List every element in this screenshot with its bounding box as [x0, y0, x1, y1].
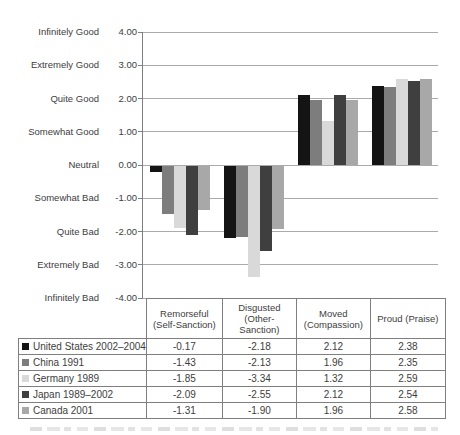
value-cell: -2.55 — [222, 387, 296, 403]
value-cell: 2.12 — [296, 387, 370, 403]
y-axis-word-label: Quite Bad — [57, 226, 99, 238]
y-axis-tick-label: Neutral0.00 — [0, 159, 137, 171]
y-axis-tick-label: Extremely Good3.00 — [0, 59, 137, 71]
value-cell: 1.32 — [296, 371, 370, 387]
y-axis-value-label: 4.00 — [99, 26, 137, 38]
y-axis-tick-label: Somewhat Bad-1.00 — [0, 192, 137, 204]
value-cell: -1.43 — [146, 355, 222, 371]
value-cell: -1.31 — [146, 403, 222, 419]
value-cell: 2.38 — [370, 339, 445, 355]
y-axis-word-label: Extremely Bad — [37, 259, 99, 271]
table-row: Canada 2001-1.31-1.901.962.58 — [19, 403, 446, 419]
y-axis-value-label: 0.00 — [99, 159, 137, 171]
axis-tick — [138, 32, 143, 33]
table-corner-cell — [19, 299, 147, 339]
bar — [420, 79, 432, 165]
legend-series-label: Germany 1989 — [33, 373, 99, 384]
axis-tick — [138, 65, 143, 66]
table-header-cell: Disgusted (Other- Sanction) — [222, 299, 296, 339]
bar — [408, 81, 420, 165]
table-row: China 1991-1.43-2.131.962.35 — [19, 355, 446, 371]
bar — [334, 95, 346, 165]
legend-series-label: Japan 1989–2002 — [33, 389, 113, 400]
legend-marker — [22, 343, 29, 350]
axis-tick — [138, 231, 143, 232]
y-axis-value-label: 1.00 — [99, 126, 137, 138]
bar — [162, 166, 174, 214]
value-cell: -1.85 — [146, 371, 222, 387]
bar — [272, 166, 284, 229]
value-cell: 2.59 — [370, 371, 445, 387]
y-axis-value-label: 2.00 — [99, 93, 137, 105]
y-axis-word-label: Infinitely Good — [38, 26, 99, 38]
legend-marker — [22, 375, 29, 382]
table-header-cell: Remorseful (Self-Sanction) — [146, 299, 222, 339]
gridline — [143, 264, 438, 265]
y-axis-tick-label: Infinitely Good4.00 — [0, 26, 137, 38]
y-axis-value-label: -3.00 — [99, 259, 137, 271]
bar-chart-figure: Infinitely Good4.00Extremely Good3.00Qui… — [0, 0, 460, 435]
value-cell: 1.96 — [296, 355, 370, 371]
y-axis-word-label: Somewhat Good — [28, 126, 99, 138]
value-cell: -1.90 — [222, 403, 296, 419]
value-cell: -2.09 — [146, 387, 222, 403]
bar — [372, 86, 384, 165]
y-axis-tick-label: Extremely Bad-3.00 — [0, 259, 137, 271]
table-row: Germany 1989-1.85-3.341.322.59 — [19, 371, 446, 387]
y-axis-word-label: Extremely Good — [31, 59, 99, 71]
legend-cell: Germany 1989 — [19, 371, 147, 387]
gridline — [143, 32, 438, 33]
value-cell: -0.17 — [146, 339, 222, 355]
legend-cell: Canada 2001 — [19, 403, 147, 419]
legend-marker — [22, 391, 29, 398]
gridline — [143, 65, 438, 66]
y-axis-value-label: -2.00 — [99, 226, 137, 238]
bar — [322, 121, 334, 165]
y-axis-value-label: -1.00 — [99, 192, 137, 204]
y-axis-value-label: 3.00 — [99, 59, 137, 71]
y-axis-word-label: Neutral — [68, 159, 99, 171]
legend-cell: China 1991 — [19, 355, 147, 371]
bar — [248, 166, 260, 277]
plot-area — [142, 32, 438, 298]
bar — [260, 166, 272, 251]
bar — [310, 100, 322, 165]
y-axis-tick-label: Quite Bad-2.00 — [0, 226, 137, 238]
value-cell: 2.54 — [370, 387, 445, 403]
y-axis-word-label: Quite Good — [50, 93, 99, 105]
value-cell: 2.12 — [296, 339, 370, 355]
data-table: Remorseful (Self-Sanction)Disgusted (Oth… — [18, 298, 446, 419]
table-header-cell: Proud (Praise) — [370, 299, 445, 339]
table-row: United States 2002–2004-0.17-2.182.122.3… — [19, 339, 446, 355]
legend-marker — [22, 407, 29, 414]
axis-tick — [138, 198, 143, 199]
axis-tick — [138, 98, 143, 99]
axis-tick — [138, 131, 143, 132]
cropped-caption-fragment — [30, 427, 438, 431]
value-cell: 2.35 — [370, 355, 445, 371]
value-cell: -2.18 — [222, 339, 296, 355]
bar — [174, 166, 186, 228]
axis-tick — [138, 165, 143, 166]
legend-cell: United States 2002–2004 — [19, 339, 147, 355]
bar — [198, 166, 210, 210]
value-cell: 1.96 — [296, 403, 370, 419]
legend-series-label: China 1991 — [33, 357, 84, 368]
legend-cell: Japan 1989–2002 — [19, 387, 147, 403]
legend-series-label: United States 2002–2004 — [33, 341, 146, 352]
value-cell: 2.58 — [370, 403, 445, 419]
legend-marker — [22, 359, 29, 366]
y-axis-tick-label: Quite Good2.00 — [0, 93, 137, 105]
bar — [346, 100, 358, 165]
legend-series-label: Canada 2001 — [33, 405, 93, 416]
y-axis-word-label: Somewhat Bad — [35, 192, 99, 204]
value-cell: -2.13 — [222, 355, 296, 371]
table-header-cell: Moved (Compassion) — [296, 299, 370, 339]
bar — [384, 87, 396, 165]
bar — [224, 166, 236, 238]
bar — [298, 95, 310, 165]
table-row: Japan 1989–2002-2.09-2.552.122.54 — [19, 387, 446, 403]
bar — [150, 166, 162, 172]
value-cell: -3.34 — [222, 371, 296, 387]
bar — [186, 166, 198, 235]
